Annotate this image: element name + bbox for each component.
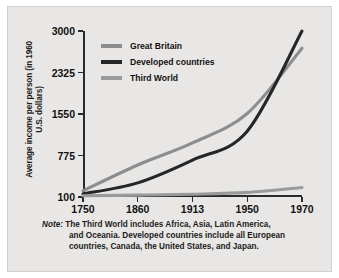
- legend-swatch: [101, 44, 122, 48]
- x-tick: [137, 197, 138, 202]
- x-tick: [82, 197, 83, 202]
- note-line-1: Note: The Third World includes Africa, A…: [42, 219, 310, 230]
- y-tick-label: 100: [57, 192, 75, 203]
- x-tick-label: 1913: [181, 204, 204, 215]
- note-line-3: countries, Canada, the United States, an…: [42, 241, 310, 252]
- chart-figure: Average income per person (in 1960 U.S. …: [7, 6, 332, 272]
- legend-item[interactable]: Third World: [101, 70, 215, 86]
- note-line-2: and Oceania. Developed countries include…: [42, 230, 310, 241]
- legend-label: Third World: [130, 73, 178, 83]
- x-tick: [192, 197, 193, 202]
- y-tick-label: 1550: [52, 109, 75, 120]
- x-tick-label: 1860: [126, 204, 149, 215]
- x-tick-label: 1970: [290, 204, 313, 215]
- legend-swatch: [101, 76, 122, 80]
- x-tick: [301, 197, 302, 202]
- x-tick: [247, 197, 248, 202]
- plot-area: 100775155023253000 17501860191319501970 …: [83, 31, 302, 197]
- y-tick-label: 3000: [52, 26, 75, 37]
- legend-item[interactable]: Developed countries: [101, 54, 215, 70]
- y-axis-title: Average income per person (in 1960 U.S. …: [25, 34, 46, 184]
- x-tick-label: 1750: [71, 204, 94, 215]
- y-tick-label: 2325: [52, 67, 75, 78]
- note-text-1: The Third World includes Africa, Asia, L…: [65, 220, 271, 229]
- note-label: Note:: [42, 220, 63, 229]
- x-tick-label: 1950: [236, 204, 259, 215]
- legend-label: Great Britain: [130, 41, 182, 51]
- legend-swatch: [101, 60, 122, 64]
- chart-note: Note: The Third World includes Africa, A…: [42, 219, 310, 253]
- chart-legend: Great BritainDeveloped countriesThird Wo…: [101, 38, 215, 86]
- legend-label: Developed countries: [130, 57, 215, 67]
- y-tick-label: 775: [57, 150, 75, 161]
- legend-item[interactable]: Great Britain: [101, 38, 215, 54]
